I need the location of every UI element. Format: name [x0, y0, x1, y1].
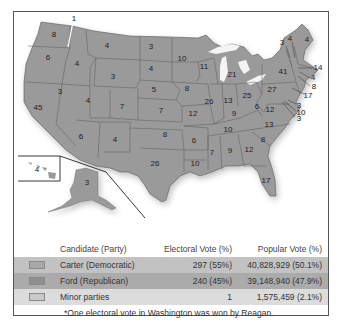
state-label-fl: 17 [262, 176, 271, 185]
state-label-ut: 4 [86, 96, 91, 105]
swatch-minor [29, 293, 45, 301]
state-label-hi: 4 [35, 165, 40, 174]
header-candidate: Candidate (Party) [60, 244, 152, 254]
state-label-wi: 11 [200, 62, 209, 71]
us-map-svg: 8164434345347576482610812610112621132591… [0, 0, 338, 232]
swatch-carter [29, 261, 45, 269]
state-label-mo: 12 [189, 109, 198, 118]
state-label-id: 4 [75, 59, 80, 68]
state-label-nh: 4 [288, 34, 293, 43]
table-row-ford: Ford (Republican) 240 (45%) 39,148,940 (… [14, 273, 328, 289]
state-label-ny: 41 [279, 67, 288, 76]
state-label-ak: 3 [85, 178, 90, 187]
electoral-vote: 1 [152, 292, 232, 302]
state-label-ma: 14 [314, 63, 323, 72]
results-table: Candidate (Party) Electoral Vote (%) Pop… [14, 241, 328, 321]
state-label-tn: 10 [224, 125, 233, 134]
header-electoral: Electoral Vote (%) [152, 244, 232, 254]
table-row-carter: Carter (Democratic) 297 (55%) 40,828,929… [14, 257, 328, 273]
state-label-sd: 4 [149, 64, 154, 73]
state-label-wv: 6 [255, 102, 260, 111]
state-label-ri: 4 [311, 73, 316, 82]
state-label-ct: 8 [312, 82, 317, 91]
state-label-nm: 4 [113, 135, 118, 144]
header-popular: Popular Vote (%) [232, 244, 328, 254]
state-label-tx: 26 [151, 159, 160, 168]
state-label-al: 9 [228, 146, 233, 155]
state-label-ar: 6 [192, 136, 197, 145]
electoral-vote: 297 (55%) [152, 260, 232, 270]
table-header: Candidate (Party) Electoral Vote (%) Pop… [14, 241, 328, 257]
state-label-ga: 12 [245, 145, 254, 154]
state-label-me: 4 [305, 35, 310, 44]
state-label-wy: 3 [111, 72, 116, 81]
state-label-ms: 7 [210, 148, 215, 157]
state-label-ia: 8 [185, 84, 190, 93]
state-label-oh: 25 [243, 91, 252, 100]
state-label-mt: 4 [105, 41, 110, 50]
state-label-mi: 21 [228, 70, 237, 79]
state-label-ne: 5 [152, 85, 157, 94]
state-label-mn: 10 [178, 54, 187, 63]
state-label-or: 6 [46, 53, 51, 62]
state-label-pa: 27 [268, 85, 277, 94]
state-label-ok: 8 [163, 130, 168, 139]
candidate-name: Minor parties [60, 292, 152, 302]
footnote: *One electoral vote in Washington was wo… [14, 305, 328, 321]
state-label-dc: 3 [297, 114, 302, 123]
table-row-minor: Minor parties 1 1,575,459 (2.1%) [14, 289, 328, 305]
state-label-nj: 17 [304, 91, 313, 100]
state-label-ky: 9 [232, 109, 237, 118]
electoral-map: 8164434345347576482610812610112621132591… [0, 0, 338, 232]
swatch-ford [29, 277, 45, 285]
state-label-nd: 3 [149, 42, 154, 51]
popular-vote: 1,575,459 (2.1%) [232, 292, 328, 302]
state-label-sc: 8 [261, 135, 266, 144]
state-label-nc: 13 [265, 120, 274, 129]
popular-vote: 40,828,929 (50.1%) [232, 260, 328, 270]
state-label-nv: 3 [58, 87, 63, 96]
state-label-va: 12 [266, 105, 275, 114]
state-label-ca: 45 [34, 103, 43, 112]
electoral-vote: 240 (45%) [152, 276, 232, 286]
state-label-co: 7 [120, 102, 125, 111]
alaska [48, 168, 116, 212]
state-label-la: 10 [191, 159, 200, 168]
state-label-az: 6 [79, 132, 84, 141]
state-label-ks: 7 [159, 106, 164, 115]
state-label-in: 13 [224, 96, 233, 105]
popular-vote: 39,148,940 (47.9%) [232, 276, 328, 286]
state-label-vt: 3 [280, 38, 285, 47]
candidate-name: Carter (Democratic) [60, 260, 152, 270]
state-label-wa: 8 [52, 30, 57, 39]
state-label-wa-reagan: 1 [72, 14, 77, 23]
state-label-il: 26 [205, 97, 214, 106]
candidate-name: Ford (Republican) [60, 276, 152, 286]
